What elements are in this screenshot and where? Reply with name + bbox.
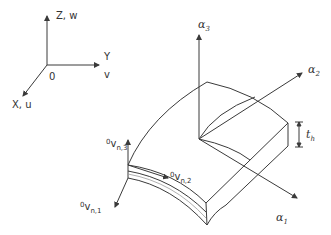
y-axis-label: Y — [103, 51, 111, 62]
alpha1-axis — [199, 139, 297, 198]
v-n2-label: 0vn,2 — [170, 171, 192, 185]
top-surface-right-edge — [206, 123, 288, 203]
front-corner-vertical — [206, 203, 207, 225]
shell-body — [128, 82, 288, 225]
v-axis-label: v — [104, 69, 110, 80]
local-axes — [199, 35, 302, 198]
right-face-bottom — [226, 146, 288, 205]
z-axis-label: Z, w — [56, 10, 77, 21]
global-axes — [23, 16, 99, 96]
v-n1-label: 0vn,1 — [80, 201, 102, 215]
x-axis-label: X, u — [12, 99, 32, 110]
v-n1-arrow — [115, 178, 128, 207]
shell-element-diagram: Z, w Y v 0 X, u α3 α2 α1 th — [0, 0, 331, 235]
right-face-lower-curve — [207, 205, 226, 225]
thickness-label: th — [306, 128, 315, 143]
cutout-edge-a2 — [199, 97, 255, 139]
v-n3-label: 0vn,3 — [106, 138, 128, 152]
thickness-dimension — [295, 122, 303, 147]
origin-label: 0 — [49, 71, 55, 82]
alpha3-label: α3 — [198, 18, 210, 33]
top-surface-left-edge — [128, 82, 207, 165]
alpha1-label: α1 — [276, 211, 288, 226]
x-axis — [23, 65, 47, 96]
cutout-edge-a1 — [199, 139, 250, 160]
alpha2-label: α2 — [308, 63, 320, 78]
alpha2-axis — [199, 73, 302, 139]
